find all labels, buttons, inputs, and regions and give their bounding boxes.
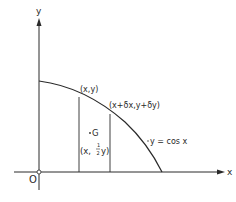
y-axis-arrow-icon	[37, 18, 42, 26]
curve-equation-label: y = cos x	[150, 137, 188, 146]
x-axis-arrow-icon	[217, 170, 225, 175]
cos-curve-strip-diagram: y x O (x,y) (x+δx,y+δy) G (x, 1 2 y) y =…	[0, 0, 236, 202]
origin-label: O	[29, 174, 37, 185]
cos-curve	[39, 81, 162, 172]
point-x-dx-y-dy-label: (x+δx,y+δy)	[109, 101, 160, 110]
centroid-frac-den: 2	[97, 150, 100, 156]
curve-label-pointer	[147, 140, 148, 141]
x-axis-label: x	[227, 167, 233, 177]
centroid-dot	[89, 132, 91, 134]
centroid-frac-num: 1	[97, 142, 100, 148]
origin-marker	[37, 170, 41, 174]
y-axis-label: y	[36, 6, 42, 16]
centroid-label: G	[92, 128, 99, 138]
centroid-coord-prefix: (x,	[80, 146, 91, 156]
centroid-coord-suffix: y)	[101, 146, 109, 156]
point-xy-label: (x,y)	[80, 85, 98, 94]
